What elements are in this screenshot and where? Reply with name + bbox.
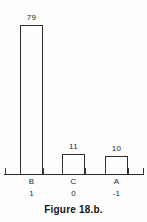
x-secondary-label-1: 1 (16, 189, 47, 198)
x-axis-tick-6 (128, 168, 129, 175)
x-tick-label-c: C (58, 177, 89, 186)
bar-value-a: 10 (101, 144, 132, 153)
x-secondary-label-minus1: -1 (101, 189, 132, 198)
bar-value-b: 79 (16, 13, 47, 22)
x-axis-tick-3 (62, 168, 63, 175)
x-axis-tick-7 (143, 168, 144, 175)
x-axis-tick-5 (105, 168, 106, 175)
x-tick-label-b: B (16, 177, 47, 186)
bar-c (62, 154, 85, 175)
bar-a (105, 156, 128, 175)
bar-value-c: 11 (58, 142, 89, 151)
bar-b (20, 25, 43, 175)
x-axis-tick-2 (43, 168, 44, 175)
figure-18b: 79 11 10 B C A 1 0 -1 Figure 18.b. (0, 0, 147, 222)
x-axis-tick-1 (20, 168, 21, 175)
x-axis-line (4, 174, 144, 175)
x-tick-label-a: A (101, 177, 132, 186)
bar-chart-plot-area: 79 11 10 B C A 1 0 -1 (0, 0, 147, 178)
x-secondary-label-0: 0 (58, 189, 89, 198)
x-axis-tick-4 (85, 168, 86, 175)
figure-caption: Figure 18.b. (0, 204, 147, 215)
x-axis-tick-0 (5, 168, 6, 175)
